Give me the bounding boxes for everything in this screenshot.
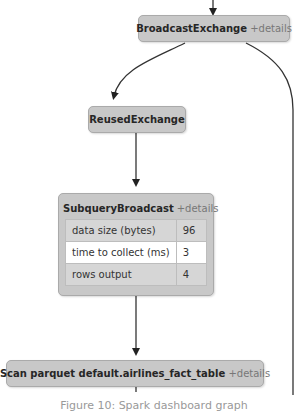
figure-caption: Figure 10: Spark dashboard graph — [44, 399, 264, 412]
node-title: BroadcastExchange — [136, 23, 247, 34]
node-subquery-broadcast[interactable]: SubqueryBroadcast+details data size (byt… — [58, 193, 214, 296]
metric-value: 96 — [176, 220, 206, 242]
metric-label: time to collect (ms) — [66, 242, 177, 264]
node-header: SubqueryBroadcast+details — [59, 194, 213, 219]
metric-value: 4 — [176, 264, 206, 286]
edge-broadcast-to-right — [246, 43, 293, 395]
node-title: SubqueryBroadcast — [63, 203, 174, 214]
metrics-row: rows output 4 — [66, 264, 207, 286]
node-scan-parquet[interactable]: Scan parquet default.airlines_fact_table… — [6, 360, 264, 387]
node-title: Scan parquet default.airlines_fact_table — [0, 368, 225, 379]
node-title: ReusedExchange — [89, 114, 185, 125]
details-toggle[interactable]: +details — [177, 203, 219, 214]
node-reused-exchange[interactable]: ReusedExchange — [88, 106, 186, 133]
metric-label: data size (bytes) — [66, 220, 177, 242]
metric-label: rows output — [66, 264, 177, 286]
details-toggle[interactable]: +details — [228, 368, 270, 379]
metrics-row: data size (bytes) 96 — [66, 220, 207, 242]
metrics-row: time to collect (ms) 3 — [66, 242, 207, 264]
metrics-table: data size (bytes) 96 time to collect (ms… — [65, 219, 207, 286]
metric-value: 3 — [176, 242, 206, 264]
edge-broadcast-to-reused — [114, 43, 185, 96]
details-toggle[interactable]: +details — [250, 23, 292, 34]
node-broadcast-exchange[interactable]: BroadcastExchange +details — [138, 15, 290, 42]
